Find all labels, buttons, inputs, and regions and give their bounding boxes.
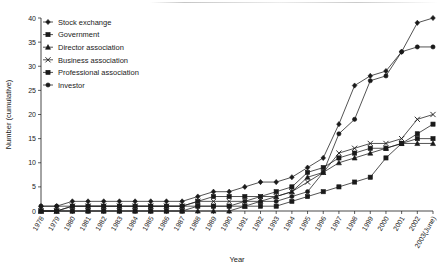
- x-axis-tick-label: 1997: [329, 215, 343, 232]
- legend-label-director-association: Director association: [58, 43, 124, 52]
- data-point-stock-exchange: [274, 179, 279, 184]
- data-point-professional-association: [384, 146, 388, 150]
- data-point-professional-association: [211, 194, 215, 198]
- data-point-stock-exchange: [431, 15, 436, 20]
- data-point-investor: [86, 204, 90, 208]
- legend-label-government: Government: [58, 30, 100, 39]
- data-point-professional-association: [274, 190, 278, 194]
- x-axis-tick-label: 1992: [251, 215, 265, 232]
- x-axis-tick-label: 1984: [125, 215, 139, 232]
- data-point-government: [368, 175, 372, 179]
- data-point-professional-association: [227, 194, 231, 198]
- data-point-government: [431, 122, 435, 126]
- data-point-professional-association: [305, 170, 309, 174]
- data-point-stock-exchange: [133, 199, 138, 204]
- data-point-investor: [70, 204, 74, 208]
- y-axis-tick-label: 25: [28, 87, 36, 94]
- data-point-government: [337, 185, 341, 189]
- x-axis-tick-label: 1996: [313, 215, 327, 232]
- data-point-government: [290, 199, 294, 203]
- data-point-government: [258, 204, 262, 208]
- data-point-investor: [39, 204, 43, 208]
- legend-label-investor: Investor: [58, 81, 85, 90]
- data-point-professional-association: [400, 141, 404, 145]
- data-point-government: [353, 180, 357, 184]
- series-line-professional-association: [41, 139, 433, 211]
- data-point-professional-association: [290, 185, 294, 189]
- data-point-stock-exchange: [211, 189, 216, 194]
- x-axis-tick-label: 1993: [266, 215, 280, 232]
- data-point-investor: [149, 204, 153, 208]
- data-point-stock-exchange: [227, 189, 232, 194]
- legend-marker-stock-exchange: [46, 19, 51, 24]
- x-axis-tick-label: 1995: [298, 215, 312, 232]
- data-point-investor: [384, 74, 388, 78]
- data-point-investor: [117, 204, 121, 208]
- data-point-professional-association: [415, 137, 419, 141]
- data-point-investor: [196, 204, 200, 208]
- data-point-government: [305, 194, 309, 198]
- data-point-government: [415, 132, 419, 136]
- data-point-stock-exchange: [305, 165, 310, 170]
- legend-label-stock-exchange: Stock exchange: [58, 18, 111, 27]
- y-axis-tick-label: 5: [32, 183, 36, 190]
- x-axis-tick-label: 1990: [219, 215, 233, 232]
- data-point-investor: [258, 199, 262, 203]
- data-point-government: [384, 156, 388, 160]
- data-point-investor: [274, 199, 278, 203]
- y-axis-tick-label: 0: [32, 208, 36, 215]
- data-point-stock-exchange: [352, 83, 357, 88]
- x-axis-tick-label: 1987: [172, 215, 186, 232]
- data-point-professional-association: [55, 209, 59, 213]
- data-point-professional-association: [243, 194, 247, 198]
- data-point-investor: [164, 204, 168, 208]
- x-axis-tick-label: 1999: [360, 215, 374, 232]
- data-point-investor: [353, 117, 357, 121]
- data-point-stock-exchange: [164, 199, 169, 204]
- data-point-stock-exchange: [243, 184, 248, 189]
- legend-label-business-association: Business association: [58, 56, 128, 65]
- x-axis-tick-label: 1988: [188, 215, 202, 232]
- data-point-stock-exchange: [101, 199, 106, 204]
- data-point-investor: [227, 204, 231, 208]
- data-point-investor: [243, 199, 247, 203]
- data-point-stock-exchange: [196, 194, 201, 199]
- scan-artifact: [150, 2, 438, 3]
- data-point-investor: [133, 204, 137, 208]
- x-axis-tick-label: 1983: [110, 215, 124, 232]
- data-point-investor: [400, 50, 404, 54]
- data-point-investor: [211, 204, 215, 208]
- data-point-stock-exchange: [368, 73, 373, 78]
- data-point-investor: [305, 190, 309, 194]
- data-point-professional-association: [258, 194, 262, 198]
- data-point-investor: [431, 45, 435, 49]
- x-axis-title: Year: [229, 255, 245, 264]
- y-axis-tick-label: 15: [28, 135, 36, 142]
- y-axis-tick-label: 40: [28, 15, 36, 22]
- data-point-stock-exchange: [148, 199, 153, 204]
- series-line-director-association: [41, 143, 433, 211]
- data-point-investor: [415, 45, 419, 49]
- data-point-stock-exchange: [258, 179, 263, 184]
- x-axis-tick-label: 1978: [31, 215, 45, 232]
- y-axis-tick-label: 20: [28, 111, 36, 118]
- data-point-professional-association: [196, 199, 200, 203]
- data-point-stock-exchange: [117, 199, 122, 204]
- x-axis-tick-label: 1991: [235, 215, 249, 232]
- data-point-stock-exchange: [415, 20, 420, 25]
- data-point-investor: [180, 204, 184, 208]
- data-point-professional-association: [337, 156, 341, 160]
- x-axis-tick-label: 1980: [63, 215, 77, 232]
- y-axis-title: Number (cumulative): [4, 79, 13, 149]
- data-point-investor: [102, 204, 106, 208]
- legend-marker-government: [46, 33, 50, 37]
- chart-figure: 0510152025303540Number (cumulative)19781…: [0, 0, 438, 267]
- legend-marker-investor: [46, 83, 50, 87]
- y-axis-tick-label: 35: [28, 39, 36, 46]
- x-axis-tick-label: 1986: [157, 215, 171, 232]
- data-point-investor: [368, 79, 372, 83]
- x-axis-tick-label: 1979: [47, 215, 61, 232]
- data-point-professional-association: [431, 137, 435, 141]
- y-axis-tick-label: 10: [28, 159, 36, 166]
- data-point-government: [321, 190, 325, 194]
